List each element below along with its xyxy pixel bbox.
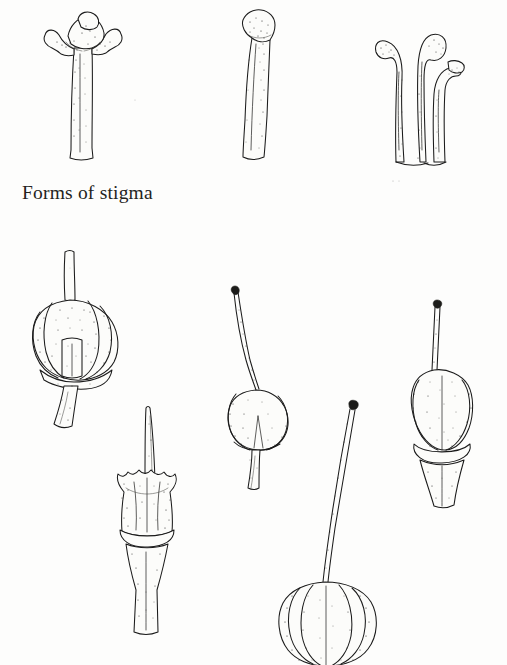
figure-ovary-lobed-long-style	[279, 400, 376, 665]
caption-forms-of-stigma: Forms of stigma	[22, 182, 153, 204]
figure-stigma-trifid	[376, 34, 465, 165]
figure-ovary-ribbed-pointed-style	[117, 407, 176, 635]
plate-drawing	[0, 0, 507, 665]
figure-stigma-capitate	[44, 12, 122, 160]
illustration-plate: Forms of stigma	[0, 0, 507, 665]
figure-ovary-small-curved-style	[228, 286, 288, 490]
figure-ovary-ovate-receptacle	[411, 300, 472, 508]
figure-ovary-sectioned	[33, 251, 118, 428]
figure-stigma-clavate	[242, 10, 275, 160]
stigma-knob-fig7	[349, 400, 358, 410]
